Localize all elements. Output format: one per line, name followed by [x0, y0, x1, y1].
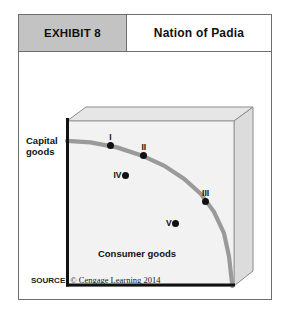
source-key: SOURCE: [31, 276, 68, 285]
source-credit: SOURCE: © Cengage Learning 2014 [31, 275, 160, 285]
data-point-label-ii: II [134, 142, 154, 152]
x-axis-label: Consumer goods [19, 248, 255, 259]
exhibit-frame: EXHIBIT 8 Nation of Padia Capital goods … [18, 14, 272, 300]
ppf-diagram [19, 52, 271, 300]
data-point-label-v: V [160, 218, 172, 228]
source-value: © Cengage Learning 2014 [70, 275, 160, 285]
data-point-label-iv: IV [109, 170, 121, 180]
data-point-label-iii: III [196, 188, 216, 198]
y-axis-label: Capital goods [26, 135, 72, 157]
y-axis-label-text: Capital goods [26, 135, 58, 157]
exhibit-number-cell: EXHIBIT 8 [19, 15, 127, 51]
data-point-v [172, 220, 179, 227]
data-point-label-i: I [100, 132, 120, 142]
chart-area: Capital goods Consumer goods IIIIIIIVV [19, 52, 271, 300]
data-point-iv [122, 172, 129, 179]
exhibit-title-cell: Nation of Padia [127, 15, 271, 51]
box-right-face [234, 107, 253, 286]
x-axis-label-text: Consumer goods [98, 248, 176, 259]
box-top-face [67, 107, 253, 121]
exhibit-header: EXHIBIT 8 Nation of Padia [19, 15, 271, 52]
